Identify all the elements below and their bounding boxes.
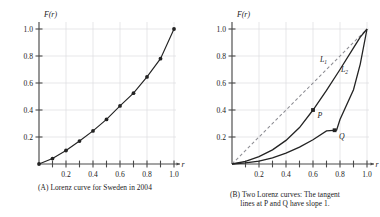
curve-label-l2-sub: 2 bbox=[345, 69, 348, 75]
x-axis-arrow-b bbox=[371, 162, 375, 165]
y-ticklabel-a-1: 1.0 bbox=[24, 25, 34, 34]
x-ticklabel-b-2: 0.4 bbox=[281, 170, 291, 179]
lorenz-curve-sweden bbox=[39, 29, 174, 164]
x-ticklabel-b-1: 0.2 bbox=[254, 170, 264, 179]
figure-two-panel-lorenz-curves: 1.0 0.8 0.6 0.4 0.2 0.2 0.4 0.6 0.8 1.0 … bbox=[0, 0, 380, 217]
curve-label-l2: L2 bbox=[340, 65, 348, 75]
point-label-p: P bbox=[317, 111, 323, 120]
y-ticklabel-a-2: 0.8 bbox=[24, 52, 34, 61]
gridlines-a bbox=[39, 22, 176, 163]
point-marker-p bbox=[311, 108, 315, 112]
panel-b-caption-line-1: (B) Two Lorenz curves: The tangent bbox=[190, 190, 380, 199]
x-ticklabel-a-4: 0.8 bbox=[142, 170, 152, 179]
y-ticklabel-b-4: 0.4 bbox=[217, 106, 227, 115]
x-ticklabel-b-3: 0.6 bbox=[308, 170, 318, 179]
panel-b-caption: (B) Two Lorenz curves: The tangent lines… bbox=[190, 190, 380, 209]
panel-a-caption: (A) Lorenz curve for Sweden in 2004 bbox=[0, 183, 190, 192]
x-ticklabel-b-4: 0.8 bbox=[335, 170, 345, 179]
x-axis-arrow-a bbox=[177, 162, 181, 165]
data-points-sweden bbox=[37, 27, 176, 166]
x-ticklabel-a-5: 1.0 bbox=[169, 170, 179, 179]
y-ticklabel-a-4: 0.4 bbox=[24, 106, 34, 115]
panel-a-caption-line-1: (A) Lorenz curve for Sweden in 2004 bbox=[0, 183, 190, 192]
panel-b-plot: 1.0 0.8 0.6 0.4 0.2 0.2 0.4 0.6 0.8 1.0 … bbox=[190, 0, 380, 190]
panel-b: 1.0 0.8 0.6 0.4 0.2 0.2 0.4 0.6 0.8 1.0 … bbox=[190, 0, 380, 217]
y-ticklabel-a-3: 0.6 bbox=[24, 79, 34, 88]
x-ticklabel-a-2: 0.4 bbox=[88, 170, 98, 179]
x-ticklabel-a-3: 0.6 bbox=[115, 170, 125, 179]
y-ticklabel-b-3: 0.6 bbox=[217, 79, 227, 88]
x-axis-label-b: r bbox=[375, 160, 379, 169]
y-ticklabel-b-2: 0.8 bbox=[217, 52, 227, 61]
y-ticklabel-b-5: 0.2 bbox=[217, 133, 227, 142]
curve-label-l1: L1 bbox=[319, 55, 327, 65]
y-axis-label-a: F(r) bbox=[43, 10, 57, 19]
curve-label-l1-sub: 1 bbox=[324, 59, 327, 65]
y-ticklabel-a-5: 0.2 bbox=[24, 133, 34, 142]
x-axis-label-a: r bbox=[181, 160, 185, 169]
panel-a-plot: 1.0 0.8 0.6 0.4 0.2 0.2 0.4 0.6 0.8 1.0 … bbox=[0, 0, 190, 185]
panel-b-caption-line-2: lines at P and Q have slope 1. bbox=[190, 199, 380, 208]
panel-a: 1.0 0.8 0.6 0.4 0.2 0.2 0.4 0.6 0.8 1.0 … bbox=[0, 0, 190, 217]
x-ticklabel-b-5: 1.0 bbox=[362, 170, 372, 179]
point-marker-q bbox=[333, 128, 337, 132]
line-of-equality-dashed bbox=[232, 29, 367, 164]
y-ticklabel-b-1: 1.0 bbox=[217, 25, 227, 34]
y-axis-label-b: F(r) bbox=[236, 10, 250, 19]
x-ticklabel-a-1: 0.2 bbox=[61, 170, 71, 179]
gridlines-b bbox=[232, 22, 369, 163]
point-label-q: Q bbox=[339, 132, 345, 141]
